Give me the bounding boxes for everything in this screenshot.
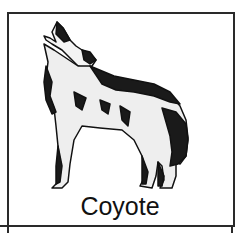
card-caption: Coyote [7,191,233,221]
howling-coyote-icon [30,16,200,194]
frame-line-left-extension [7,225,9,233]
frame-line-right-extension [231,225,233,233]
card-divider [0,225,234,227]
